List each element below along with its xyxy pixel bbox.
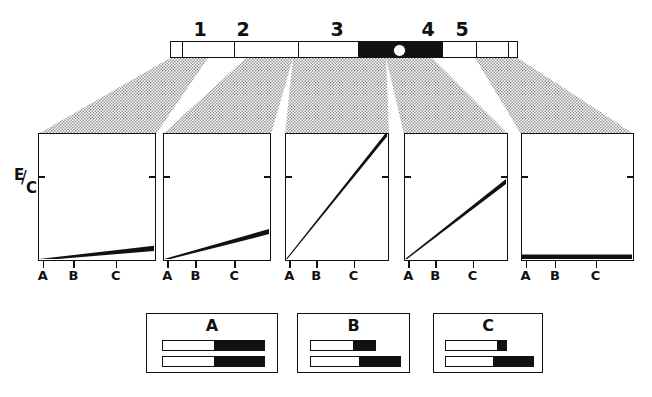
panel-region-1 <box>38 133 156 261</box>
chromosome-seg-tip-right <box>509 42 519 57</box>
x-tick-B <box>316 261 318 268</box>
x-axis-label-A: A <box>401 268 415 283</box>
chromosome-seg-1 <box>183 42 235 57</box>
legend-bar-c-top-filled <box>497 341 506 350</box>
x-axis-label-A: A <box>282 268 296 283</box>
chromosome-seg-tip-left <box>171 42 183 57</box>
x-axis-label-B: B <box>548 268 562 283</box>
x-tick-A <box>408 261 410 268</box>
x-axis-label-B: B <box>66 268 80 283</box>
panel-plot-line-region-4 <box>405 134 506 259</box>
x-axis-labels-region-4: ABC <box>404 268 508 284</box>
panel-region-3 <box>285 133 389 261</box>
x-axis-ticks-region-4 <box>404 261 508 268</box>
chromosome-seg-2 <box>235 42 299 57</box>
x-tick-C <box>116 261 118 268</box>
x-axis-ticks-region-3 <box>285 261 389 268</box>
panel-region-4 <box>404 133 508 261</box>
chromosome-region-label-2: 2 <box>233 18 253 40</box>
x-axis-labels-region-3: ABC <box>285 268 389 284</box>
legend-box-b: B <box>297 313 410 373</box>
x-tick-B <box>73 261 75 268</box>
panel-region-2 <box>163 133 271 261</box>
fan-projection-region-5 <box>475 58 634 134</box>
figure-canvas: 12345 E / C ABCABCABCABCABC ABC <box>0 0 652 397</box>
chromosome-seg-5 <box>477 42 509 57</box>
x-axis-label-B: B <box>188 268 202 283</box>
x-axis-label-C: C <box>466 268 480 283</box>
legend-bar-a-top-filled <box>214 341 265 350</box>
x-axis-ticks-region-5 <box>521 261 634 268</box>
panel-plot-line-region-3 <box>286 134 387 259</box>
legend-box-c: C <box>433 313 543 373</box>
chromosome-region-label-3: 3 <box>327 18 347 40</box>
chromosome-region-label-4: 4 <box>418 18 438 40</box>
x-axis-labels-region-2: ABC <box>163 268 271 284</box>
chromosome-region-label-1: 1 <box>190 18 210 40</box>
legend-box-b-title: B <box>298 316 409 335</box>
legend-box-c-title: C <box>434 316 542 335</box>
x-axis-ticks-region-2 <box>163 261 271 268</box>
x-tick-A <box>526 261 528 268</box>
legend-bar-c-top <box>445 340 507 351</box>
panel-plot-line-region-1 <box>39 134 154 259</box>
x-axis-label-C: C <box>227 268 241 283</box>
legend-bar-b-bottom <box>310 356 401 367</box>
x-tick-C <box>234 261 236 268</box>
x-tick-B <box>555 261 557 268</box>
y-axis-denominator: C <box>26 181 37 196</box>
x-axis-label-C: C <box>347 268 361 283</box>
chromosome-region-label-5: 5 <box>452 18 472 40</box>
legend-bar-b-top-filled <box>353 341 375 350</box>
chromosome-seg-band-q <box>401 42 443 57</box>
x-axis-ticks-region-1 <box>38 261 156 268</box>
x-axis-label-B: B <box>309 268 323 283</box>
legend-box-a-title: A <box>147 316 277 335</box>
x-axis-labels-region-1: ABC <box>38 268 156 284</box>
panel-plot-line-region-2 <box>164 134 269 259</box>
panel-plot-line-region-5 <box>522 134 632 259</box>
x-tick-B <box>435 261 437 268</box>
x-axis-label-C: C <box>109 268 123 283</box>
legend-bar-a-bottom-filled <box>214 357 265 366</box>
x-tick-C <box>354 261 356 268</box>
chromosome-region-labels: 12345 <box>0 0 652 40</box>
legend-bar-b-bottom-filled <box>359 357 400 366</box>
legend-bar-c-bottom-filled <box>493 357 533 366</box>
x-axis-label-C: C <box>589 268 603 283</box>
x-axis-labels-region-5: ABC <box>521 268 634 284</box>
x-axis-label-A: A <box>519 268 533 283</box>
x-tick-C <box>473 261 475 268</box>
legend-bar-a-top <box>162 340 265 351</box>
projection-fan <box>0 58 652 134</box>
chromosome-ideogram <box>170 41 518 58</box>
legend-bar-c-bottom <box>445 356 534 367</box>
legend-box-a: A <box>146 313 278 373</box>
legend-bar-a-bottom <box>162 356 265 367</box>
fan-projection-region-3 <box>285 58 389 134</box>
legend-bar-b-top <box>310 340 376 351</box>
centromere-icon <box>393 44 406 57</box>
x-axis-label-A: A <box>36 268 50 283</box>
x-axis-label-A: A <box>160 268 174 283</box>
x-tick-B <box>195 261 197 268</box>
x-axis-label-B: B <box>428 268 442 283</box>
x-tick-A <box>43 261 45 268</box>
chromosome-seg-4 <box>443 42 477 57</box>
panel-region-5 <box>521 133 634 261</box>
x-tick-A <box>289 261 291 268</box>
chromosome-seg-3 <box>299 42 359 57</box>
x-tick-A <box>167 261 169 268</box>
x-tick-C <box>596 261 598 268</box>
